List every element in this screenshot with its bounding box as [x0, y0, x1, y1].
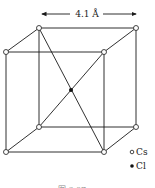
legend-cl-label: Cl [136, 161, 146, 171]
cs-atom [37, 26, 42, 31]
figure-caption: 图 6.07 [58, 185, 86, 188]
cs-atom [4, 50, 9, 55]
edge-connect-top-right [104, 28, 136, 52]
cscl-unit-cell-diagram: 4.1 Å Cs Cl 图 6.07 [0, 0, 155, 188]
edge-connect-top-left [6, 28, 39, 52]
cs-atom [37, 125, 42, 130]
legend-cl-icon [130, 164, 134, 168]
legend-cs-label: Cs [136, 147, 148, 157]
cs-atom [134, 125, 139, 130]
dimension-label: 4.1 Å [75, 8, 99, 19]
cs-atom [134, 26, 139, 31]
edge-connect-bottom-left [6, 127, 39, 152]
legend-cs-icon [130, 150, 134, 154]
cl-atom [69, 88, 73, 92]
cs-atom [102, 50, 107, 55]
cs-atom [102, 150, 107, 155]
edge-connect-bottom-right [104, 127, 136, 152]
cs-atom [4, 150, 9, 155]
